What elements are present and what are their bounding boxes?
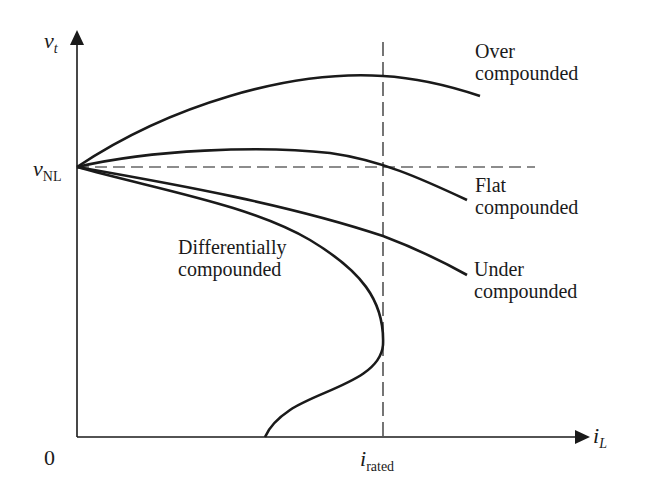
y-axis-label: vt	[44, 30, 58, 60]
under-label-line1: Under	[474, 258, 577, 280]
over-label-line2: compounded	[475, 62, 578, 84]
y-axis-arrow-icon	[70, 30, 84, 45]
differential-label-line2: compounded	[178, 258, 286, 280]
vnl-label: vNL	[33, 158, 61, 188]
flat-compounded-curve	[77, 149, 467, 200]
x-axis-label: iL	[593, 425, 607, 455]
under-label-line2: compounded	[474, 280, 577, 302]
over-compounded-label: Over compounded	[475, 40, 578, 84]
irated-label-sub: rated	[366, 459, 394, 474]
over-label-line1: Over	[475, 40, 578, 62]
vnl-label-main: v	[33, 156, 43, 181]
flat-label-line1: Flat	[475, 174, 578, 196]
y-axis-label-main: v	[44, 28, 54, 53]
under-compounded-label: Under compounded	[474, 258, 577, 302]
over-compounded-curve	[77, 75, 480, 167]
differentially-compounded-curve	[77, 167, 383, 437]
flat-label-line2: compounded	[475, 196, 578, 218]
origin-label: 0	[44, 447, 55, 469]
irated-label: irated	[360, 448, 394, 478]
y-axis-label-sub: t	[54, 41, 58, 56]
x-axis-label-sub: L	[599, 436, 607, 451]
differentially-compounded-label: Differentially compounded	[178, 236, 286, 280]
flat-compounded-label: Flat compounded	[475, 174, 578, 218]
x-axis-arrow-icon	[575, 430, 590, 444]
differential-label-line1: Differentially	[178, 236, 286, 258]
vnl-label-sub: NL	[43, 169, 62, 184]
